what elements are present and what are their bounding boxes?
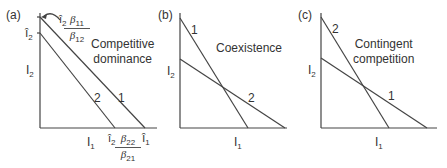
- title-line-2: dominance: [93, 52, 152, 66]
- panel-a-title: Competitive dominance: [91, 37, 154, 67]
- panel-a-line-label-2: 2: [94, 92, 101, 104]
- panel-b-isocline-2: [180, 59, 285, 128]
- panel-c-x-axis-label: I1: [375, 136, 383, 151]
- panel-a-y-intercept-fraction: β11 β12: [64, 14, 90, 44]
- panel-c-title: Contingent competition: [353, 37, 414, 67]
- panel-b-y-axis-label: I2: [167, 65, 175, 80]
- panel-a-isocline-1: [40, 17, 145, 128]
- title-line-2: competition: [353, 52, 414, 66]
- panel-a-x-intercept-fraction: β22 β21: [115, 133, 141, 163]
- panel-a-x-axis-label: I1: [87, 136, 95, 151]
- panel-c-isocline-1: [321, 58, 427, 128]
- panel-b-line-label-2: 2: [248, 92, 255, 104]
- panel-b-line-label-1: 1: [191, 24, 198, 36]
- panel-c-line-label-2: 2: [332, 23, 339, 35]
- panel-a-y-axis-label: I2: [26, 64, 34, 79]
- panel-b-title: Coexistence: [216, 42, 282, 54]
- panel-c-line-label-1: 1: [388, 90, 395, 102]
- panel-a-y-tick-label: î2: [25, 27, 33, 42]
- panel-b-label: (b): [158, 9, 173, 21]
- title-line-1: Contingent: [355, 37, 413, 51]
- panel-a-line-label-1: 1: [118, 92, 125, 104]
- panel-c-label: (c): [298, 9, 312, 21]
- panel-a-label: (a): [6, 9, 21, 21]
- panel-a-x-tick-label: î1: [142, 132, 150, 147]
- panel-b-x-axis-label: I1: [234, 136, 242, 151]
- title-line-1: Competitive: [91, 37, 154, 51]
- panel-c-y-axis-label: I2: [308, 64, 316, 79]
